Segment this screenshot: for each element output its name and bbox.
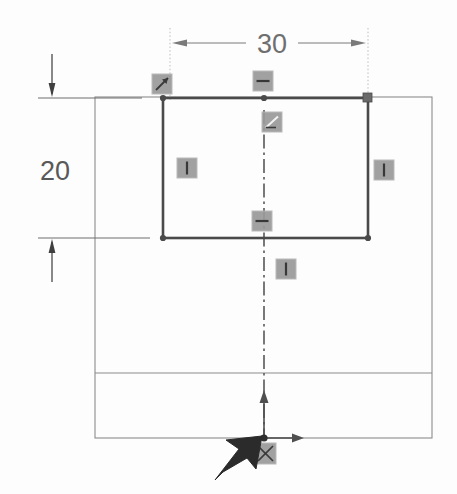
- height-dimension-arrow-top: [49, 83, 56, 97]
- vertex-top-mid[interactable]: [261, 95, 267, 101]
- sketch-origin[interactable]: [260, 390, 305, 443]
- width-dimension[interactable]: 30: [172, 29, 366, 59]
- width-dimension-arrow-left: [172, 39, 187, 46]
- width-dimension-arrow-right: [351, 39, 366, 46]
- vertex-bottom-left[interactable]: [160, 235, 166, 241]
- origin-x-axis-arrow: [292, 434, 304, 443]
- handle-top-right[interactable]: [363, 93, 372, 102]
- height-dimension[interactable]: 20: [38, 54, 150, 282]
- constraint-icon-vertical-left[interactable]: [177, 158, 197, 178]
- mouse-cursor-pointer[interactable]: [215, 436, 262, 480]
- height-dimension-label[interactable]: 20: [40, 156, 70, 186]
- mouse-cursor[interactable]: [215, 436, 262, 480]
- vertex-bottom-right[interactable]: [365, 235, 371, 241]
- constraint-icon-vertical-centerline[interactable]: [276, 259, 296, 279]
- height-dimension-arrow-bottom: [49, 239, 56, 253]
- sketch-canvas[interactable]: 3020: [0, 0, 457, 494]
- constraint-icon-perpendicular[interactable]: [262, 112, 282, 132]
- sketch-drawing-surface[interactable]: 3020: [0, 0, 457, 494]
- width-dimension-label[interactable]: 30: [257, 29, 287, 59]
- constraint-icon-vertical-right[interactable]: [374, 160, 394, 180]
- origin-y-axis-arrow: [260, 390, 269, 403]
- constraint-icon-horizontal-top[interactable]: [253, 71, 273, 91]
- constraint-icon-coincident[interactable]: [152, 74, 172, 94]
- constraint-icon-horizontal-bottom[interactable]: [252, 211, 272, 231]
- vertex-top-left[interactable]: [160, 95, 166, 101]
